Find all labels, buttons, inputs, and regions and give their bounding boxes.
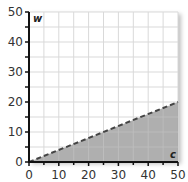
y-tick-label: 10 (8, 125, 23, 139)
y-axis-variable-label: w (33, 13, 43, 24)
y-tick-label: 20 (8, 95, 23, 109)
x-axis-variable-label: c (170, 149, 176, 160)
x-tick-label: 30 (111, 168, 126, 182)
x-tick-label: 10 (51, 168, 66, 182)
y-tick-label: 30 (8, 65, 23, 79)
y-tick-label: 0 (15, 155, 23, 169)
chart: 0102030405001020304050 w c (0, 0, 188, 182)
x-tick-label: 20 (81, 168, 96, 182)
x-tick-label: 40 (141, 168, 156, 182)
y-tick-label: 40 (8, 35, 23, 49)
y-tick-label: 50 (8, 5, 23, 19)
x-tick-label: 50 (170, 168, 185, 182)
x-tick-label: 0 (25, 168, 33, 182)
